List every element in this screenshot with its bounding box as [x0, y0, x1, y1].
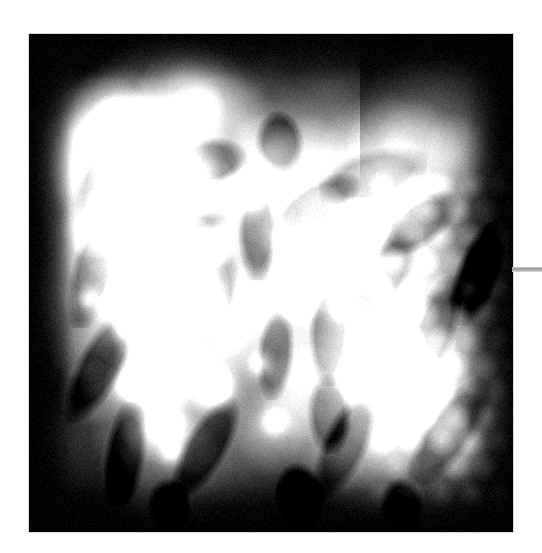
micrograph-canvas[interactable] [29, 34, 513, 532]
leader-line [512, 267, 542, 272]
figure-stage: Grayscale fluorescence micrograph of a t… [0, 0, 542, 553]
fluorescence-micrograph-panel[interactable] [29, 34, 513, 532]
